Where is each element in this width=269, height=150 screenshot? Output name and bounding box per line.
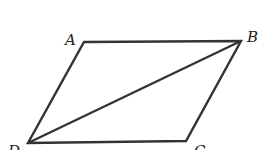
vertex-label-b: B — [246, 28, 258, 46]
diagonal-db — [28, 41, 241, 143]
vertex-label-a: A — [63, 31, 76, 49]
vertex-label-c: C — [194, 142, 206, 150]
parallelogram-diagram: A B C D — [0, 0, 269, 150]
vertex-label-d: D — [7, 142, 20, 150]
